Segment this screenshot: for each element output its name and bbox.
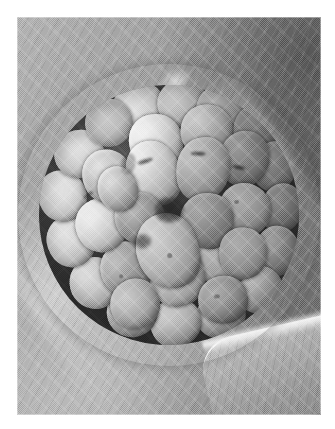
micrograph-figure: Black-and-white scanning electron microg…: [0, 0, 335, 429]
blastomere: [176, 137, 231, 202]
photo-plate: [17, 17, 321, 415]
embryo: [17, 55, 321, 376]
